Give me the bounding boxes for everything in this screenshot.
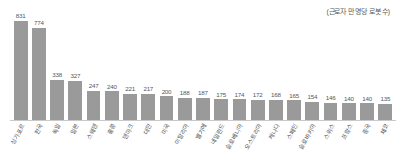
bar-rect — [196, 98, 210, 120]
category-label: 스페인 — [286, 123, 300, 141]
category-label: 독일 — [51, 123, 62, 136]
category-label: 일본 — [70, 123, 81, 136]
category-label: 미국 — [161, 123, 172, 136]
category-label-slot: 슬로바키아 — [304, 121, 321, 159]
bar-value-label: 135 — [380, 96, 390, 102]
category-label-slot: 슬로베니아 — [231, 121, 248, 159]
bar-rect — [160, 96, 174, 120]
category-label-slot: 한국 — [30, 121, 47, 159]
bar-rect — [141, 94, 155, 120]
category-label-slot: 체코 — [377, 121, 394, 159]
category-label-slot: 스페인 — [286, 121, 303, 159]
category-label: 스웨덴 — [85, 123, 99, 141]
bar-value-label: 831 — [16, 13, 26, 19]
category-label: 덴마크 — [121, 123, 135, 141]
bar-value-label: 165 — [289, 93, 299, 99]
category-label-slot: 일본 — [67, 121, 84, 159]
bar-rect — [50, 80, 64, 120]
bar-rect — [360, 103, 374, 120]
bar-column: 146 — [322, 12, 339, 120]
bar-column: 140 — [340, 12, 357, 120]
bar-column: 217 — [140, 12, 157, 120]
bar-value-label: 175 — [216, 92, 226, 98]
category-label-slot: 스웨덴 — [85, 121, 102, 159]
bar-value-label: 188 — [180, 90, 190, 96]
bar-column: 831 — [12, 12, 29, 120]
category-label: 대만 — [143, 123, 154, 136]
category-label-slot: 이탈리아 — [176, 121, 193, 159]
bar-value-label: 327 — [70, 73, 80, 79]
bar-rect — [305, 102, 319, 120]
bar-rect — [214, 99, 228, 120]
bar-column: 221 — [121, 12, 138, 120]
bar-column: 338 — [48, 12, 65, 120]
bar-value-label: 240 — [107, 84, 117, 90]
category-label-slot: 오스트리아 — [249, 121, 266, 159]
bar-column: 240 — [103, 12, 120, 120]
plot-area: 8317743383272472402212172001881871751741… — [12, 12, 394, 120]
category-label-slot: 덴마크 — [121, 121, 138, 159]
category-label: 스위스 — [322, 123, 336, 141]
bar-rect — [251, 100, 265, 121]
bar-value-label: 200 — [162, 89, 172, 95]
category-label: 홍콩 — [106, 123, 117, 136]
category-label: 캐나다 — [267, 123, 281, 141]
category-label: 한국 — [33, 123, 44, 136]
bar-value-label: 774 — [34, 20, 44, 26]
bar-value-label: 140 — [344, 96, 354, 102]
bar-rect — [178, 98, 192, 120]
bar-value-label: 140 — [362, 96, 372, 102]
category-label-slot: 홍콩 — [103, 121, 120, 159]
bar-rect — [378, 104, 392, 120]
bar-column: 188 — [176, 12, 193, 120]
bar-rect — [123, 94, 137, 120]
category-label-slot: 프랑스 — [340, 121, 357, 159]
category-label-slot: 독일 — [48, 121, 65, 159]
bar-column: 175 — [213, 12, 230, 120]
bar-rect — [14, 21, 28, 120]
category-label: 체코 — [380, 123, 391, 136]
bar-rect — [68, 81, 82, 120]
category-label-slot: 중국 — [358, 121, 375, 159]
robot-density-bar-chart: (근로자 만 명당 로봇 수) 831774338327247240221217… — [0, 0, 398, 159]
category-label: 네덜란드 — [210, 123, 227, 146]
category-label: 벨기에 — [194, 123, 208, 141]
bar-column: 187 — [194, 12, 211, 120]
bar-column: 327 — [67, 12, 84, 120]
bar-value-label: 338 — [52, 72, 62, 78]
bar-column: 247 — [85, 12, 102, 120]
bar-column: 174 — [231, 12, 248, 120]
bar-value-label: 168 — [271, 92, 281, 98]
category-axis-labels: 싱가포르한국독일일본스웨덴홍콩덴마크대만미국이탈리아벨기에네덜란드슬로베니아오스… — [12, 121, 394, 159]
bar-column: 165 — [286, 12, 303, 120]
bar-column: 172 — [249, 12, 266, 120]
bar-column: 135 — [377, 12, 394, 120]
bar-value-label: 146 — [326, 95, 336, 101]
bar-column: 200 — [158, 12, 175, 120]
bar-rect — [269, 100, 283, 120]
bar-value-label: 221 — [125, 86, 135, 92]
bar-value-label: 187 — [198, 90, 208, 96]
bar-rect — [342, 103, 356, 120]
bar-rect — [287, 100, 301, 120]
bar-rect — [32, 28, 46, 120]
category-label: 중국 — [361, 123, 372, 136]
bar-rect — [233, 99, 247, 120]
bar-rect — [105, 91, 119, 120]
bar-column: 774 — [30, 12, 47, 120]
category-label-slot: 미국 — [158, 121, 175, 159]
bar-value-label: 174 — [235, 92, 245, 98]
category-label-slot: 캐나다 — [267, 121, 284, 159]
bar-value-label: 172 — [253, 92, 263, 98]
bar-column: 168 — [267, 12, 284, 120]
category-label: 이탈리아 — [173, 123, 190, 146]
bar-rect — [87, 91, 101, 120]
bar-value-label: 217 — [143, 86, 153, 92]
category-label: 프랑스 — [340, 123, 354, 141]
category-label-slot: 스위스 — [322, 121, 339, 159]
category-label-slot: 대만 — [140, 121, 157, 159]
bar-column: 154 — [304, 12, 321, 120]
category-label-slot: 싱가포르 — [12, 121, 29, 159]
bar-column: 140 — [358, 12, 375, 120]
category-label: 싱가포르 — [9, 123, 26, 146]
